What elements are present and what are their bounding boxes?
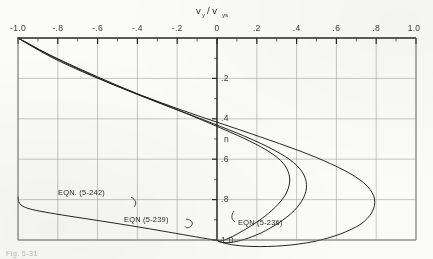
annotation-label: EQN (5-236) — [238, 218, 283, 227]
figure-root: -1.0 -.8 -.6 -.4 -.2 0 .2 .4 .6 .8 1.0 v… — [0, 0, 433, 259]
xtick-label: .2 — [253, 23, 261, 33]
xtick-label: -1.0 — [10, 23, 26, 33]
ytick-label: .6 — [221, 154, 229, 164]
figure-caption: Fig. 5-31 — [6, 249, 38, 258]
xtick-label: 1.0 — [408, 23, 421, 33]
xtick-label: .4 — [293, 23, 301, 33]
xtick-label: -.6 — [92, 23, 103, 33]
xtick-label: -.4 — [132, 23, 143, 33]
title-slash-v: / v — [207, 5, 217, 16]
title-v-main: v — [196, 5, 201, 16]
annotation-label: EQN. (5-242) — [58, 188, 105, 197]
velocity-profile-chart: -1.0 -.8 -.6 -.4 -.2 0 .2 .4 .6 .8 1.0 v… — [0, 0, 433, 259]
title-sub-ys: ys — [222, 11, 228, 18]
xtick-label: .6 — [333, 23, 341, 33]
xtick-label: -.8 — [52, 23, 63, 33]
xtick-label: 0 — [214, 23, 219, 33]
y-axis-title: n — [224, 134, 229, 144]
ytick-label: .8 — [221, 194, 229, 204]
annotation-label: EQN (5-239) — [124, 215, 169, 224]
xtick-label: -.2 — [172, 23, 183, 33]
xtick-label: .8 — [372, 23, 380, 33]
ytick-label: .4 — [221, 113, 229, 123]
ytick-label: .2 — [221, 73, 229, 83]
